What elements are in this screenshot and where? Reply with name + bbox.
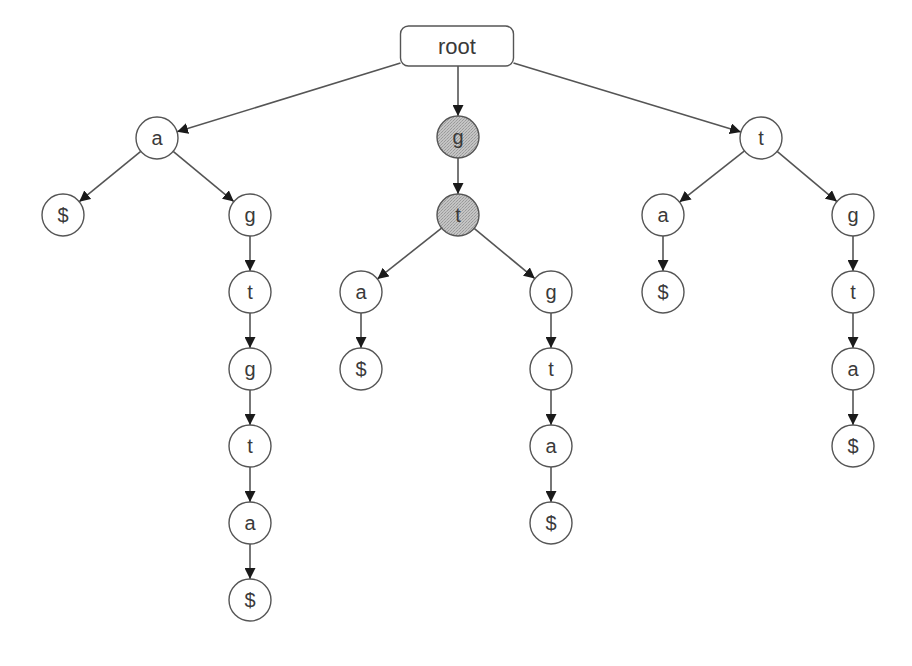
edge-arrow-root-to-a1: [177, 63, 400, 132]
trie-node-a1_g_t_g_t_a[interactable]: a: [229, 502, 271, 544]
node-label: g: [244, 204, 255, 226]
edge-arrow-root-to-t1: [514, 63, 741, 132]
node-label: t: [455, 204, 461, 226]
trie-node-a1[interactable]: a: [136, 117, 178, 159]
node-label: g: [244, 358, 255, 380]
edge-arrow-g1_t-to-g1_t_a: [377, 228, 441, 279]
edge-arrow-t1-to-t1_a: [680, 151, 745, 202]
suffix-trie-diagram: root a$gtgta$gta$gta$ta$gta$: [0, 0, 912, 666]
terminal-symbol-label: $: [545, 512, 556, 534]
trie-node-a1_g_t_g_t_a_end[interactable]: $: [229, 579, 271, 621]
trie-node-t1_g_t[interactable]: t: [832, 271, 874, 313]
edge-arrow-a1-to-a1_g: [173, 151, 234, 201]
node-label: t: [758, 127, 764, 149]
trie-node-g1_t_a_end[interactable]: $: [340, 348, 382, 390]
terminal-symbol-label: $: [847, 435, 858, 457]
trie-node-g1_t_g_t_a_end[interactable]: $: [530, 502, 572, 544]
trie-node-g1_t_a[interactable]: a: [340, 271, 382, 313]
node-label: a: [545, 435, 557, 457]
node-label: a: [657, 204, 669, 226]
edge-arrow-g1_t-to-g1_t_g: [474, 228, 535, 278]
trie-node-a1_g[interactable]: g: [229, 194, 271, 236]
trie-node-a1_g_t_g_t[interactable]: t: [229, 425, 271, 467]
root-label: root: [438, 34, 476, 59]
node-label: t: [850, 281, 856, 303]
trie-node-g1_t_g_t_a[interactable]: a: [530, 425, 572, 467]
trie-node-g1_t_g[interactable]: g: [530, 271, 572, 313]
trie-node-g1_t[interactable]: t: [437, 194, 479, 236]
trie-node-t1_g_t_a[interactable]: a: [832, 348, 874, 390]
edge-arrow-t1-to-t1_g: [777, 151, 837, 201]
node-label: t: [548, 358, 554, 380]
trie-node-a1_g_t[interactable]: t: [229, 271, 271, 313]
trie-node-g1_t_g_t[interactable]: t: [530, 348, 572, 390]
node-label: a: [355, 281, 367, 303]
node-label: a: [847, 358, 859, 380]
node-label: t: [247, 435, 253, 457]
terminal-symbol-label: $: [244, 589, 255, 611]
root-node[interactable]: root: [401, 26, 514, 66]
terminal-symbol-label: $: [355, 358, 366, 380]
trie-node-g1[interactable]: g: [437, 116, 479, 158]
node-label: g: [452, 126, 463, 148]
terminal-symbol-label: $: [657, 281, 668, 303]
trie-node-a1_g_t_g[interactable]: g: [229, 348, 271, 390]
trie-node-t1_a_end[interactable]: $: [642, 271, 684, 313]
node-label: a: [151, 127, 163, 149]
trie-node-t1_a[interactable]: a: [642, 194, 684, 236]
trie-node-t1_g[interactable]: g: [832, 194, 874, 236]
terminal-symbol-label: $: [57, 204, 68, 226]
node-label: a: [244, 512, 256, 534]
trie-node-t1[interactable]: t: [740, 117, 782, 159]
trie-node-a1_end[interactable]: $: [42, 194, 84, 236]
node-label: t: [247, 281, 253, 303]
trie-node-t1_g_t_a_end[interactable]: $: [832, 425, 874, 467]
edge-arrow-a1-to-a1_end: [79, 151, 141, 201]
node-label: g: [545, 281, 556, 303]
node-label: g: [847, 204, 858, 226]
